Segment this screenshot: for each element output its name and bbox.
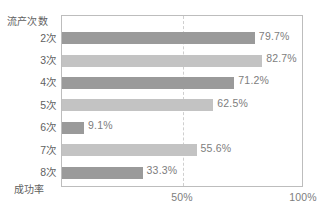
bar-3次 bbox=[62, 55, 262, 67]
bar-row: 9.1% bbox=[62, 117, 302, 139]
bar-value-label: 9.1% bbox=[88, 119, 113, 131]
bar-value-label: 62.5% bbox=[217, 97, 248, 109]
y-tick-label-4次: 4次 bbox=[0, 74, 56, 89]
bar-8次 bbox=[62, 167, 143, 179]
bar-4次 bbox=[62, 77, 234, 89]
y-tick-label-7次: 7次 bbox=[0, 142, 56, 157]
bar-row: 33.3% bbox=[62, 162, 302, 184]
plot-area: 79.7%82.7%71.2%62.5%9.1%55.6%33.3% bbox=[61, 15, 303, 187]
y-tick-label-2次: 2次 bbox=[0, 30, 56, 45]
bar-7次 bbox=[62, 144, 197, 156]
bar-6次 bbox=[62, 122, 84, 134]
bar-value-label: 79.7% bbox=[259, 30, 290, 42]
y-tick-label-3次: 3次 bbox=[0, 52, 56, 67]
bar-row: 71.2% bbox=[62, 72, 302, 94]
bar-row: 79.7% bbox=[62, 28, 302, 50]
x-tick-label-100: 100% bbox=[289, 191, 317, 203]
y-tick-label-8次: 8次 bbox=[0, 164, 56, 179]
bar-row: 55.6% bbox=[62, 140, 302, 162]
bar-chart: 流产次数 成功率 79.7%82.7%71.2%62.5%9.1%55.6%33… bbox=[0, 0, 328, 216]
bar-row: 62.5% bbox=[62, 95, 302, 117]
x-axis-title: 成功率 bbox=[14, 181, 45, 196]
bar-5次 bbox=[62, 99, 213, 111]
x-tick-label-50: 50% bbox=[171, 191, 193, 203]
y-axis-title: 流产次数 bbox=[7, 13, 48, 28]
y-tick-label-5次: 5次 bbox=[0, 97, 56, 112]
bar-value-label: 71.2% bbox=[238, 74, 269, 86]
bar-2次 bbox=[62, 32, 255, 44]
bar-value-label: 82.7% bbox=[266, 52, 297, 64]
bar-rows: 79.7%82.7%71.2%62.5%9.1%55.6%33.3% bbox=[62, 16, 302, 186]
bar-value-label: 33.3% bbox=[147, 164, 178, 176]
bar-row: 82.7% bbox=[62, 50, 302, 72]
bar-value-label: 55.6% bbox=[201, 142, 232, 154]
y-tick-label-6次: 6次 bbox=[0, 119, 56, 134]
